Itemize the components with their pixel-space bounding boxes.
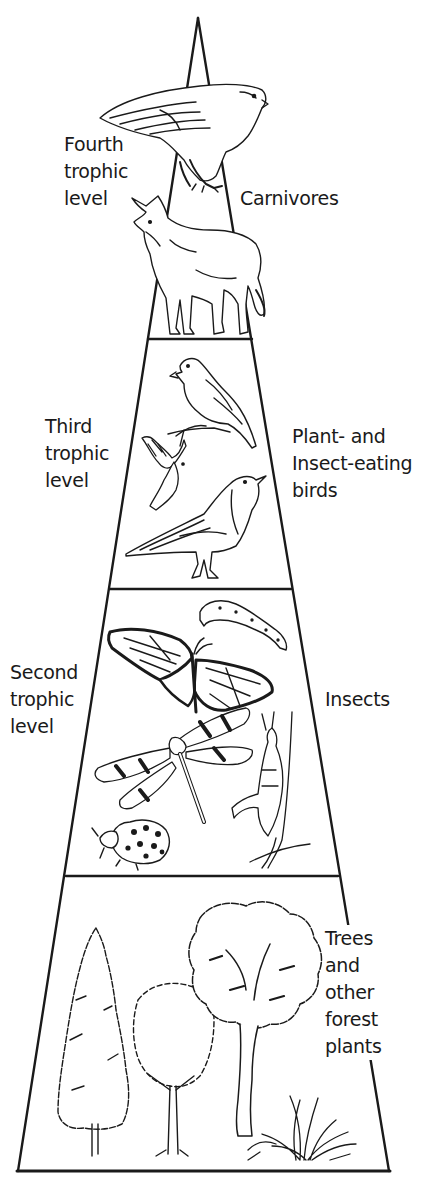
third-trophic-level-label: Third trophic level bbox=[45, 413, 109, 494]
label-line: trophic bbox=[64, 158, 128, 185]
grass-clump-illustration bbox=[248, 1096, 356, 1160]
label-line: birds bbox=[292, 477, 412, 504]
label-line: Second bbox=[10, 659, 78, 686]
label-line: Fourth bbox=[64, 131, 128, 158]
label-line: trophic bbox=[10, 686, 78, 713]
trees-and-forest-plants-label: Trees and other forest plants bbox=[325, 925, 384, 1060]
label-line: Third bbox=[45, 413, 109, 440]
label-line: and bbox=[325, 952, 362, 979]
second-trophic-level-label: Second trophic level bbox=[10, 659, 78, 740]
dragonfly-illustration bbox=[95, 708, 252, 822]
label-line: trophic bbox=[45, 440, 109, 467]
label-line: plants bbox=[325, 1033, 384, 1060]
grasshopper-illustration bbox=[232, 712, 310, 868]
monarch-butterfly-illustration bbox=[109, 629, 273, 712]
young-tree-illustration bbox=[134, 983, 215, 1156]
label-line: Carnivores bbox=[240, 185, 339, 212]
label-line: Trees bbox=[325, 925, 375, 952]
label-line: Insects bbox=[325, 686, 390, 713]
carnivores-label: Carnivores bbox=[240, 185, 339, 212]
label-line: Insect-eating bbox=[292, 450, 412, 477]
robin-illustration bbox=[126, 476, 266, 578]
conifer-tree-illustration bbox=[58, 928, 129, 1156]
caterpillar-illustration bbox=[200, 601, 287, 650]
label-line: level bbox=[64, 185, 128, 212]
ladybug-illustration bbox=[92, 820, 169, 870]
plant-insect-eating-birds-label: Plant- and Insect-eating birds bbox=[292, 423, 412, 504]
label-line: Plant- and bbox=[292, 423, 412, 450]
label-line: level bbox=[10, 713, 78, 740]
flying-bird-illustration bbox=[142, 430, 186, 510]
label-line: forest bbox=[325, 1006, 380, 1033]
label-line: other bbox=[325, 979, 376, 1006]
fourth-trophic-level-label: Fourth trophic level bbox=[64, 131, 128, 212]
perched-finch-illustration bbox=[168, 359, 256, 448]
insects-label: Insects bbox=[325, 686, 390, 713]
label-line: level bbox=[45, 467, 109, 494]
